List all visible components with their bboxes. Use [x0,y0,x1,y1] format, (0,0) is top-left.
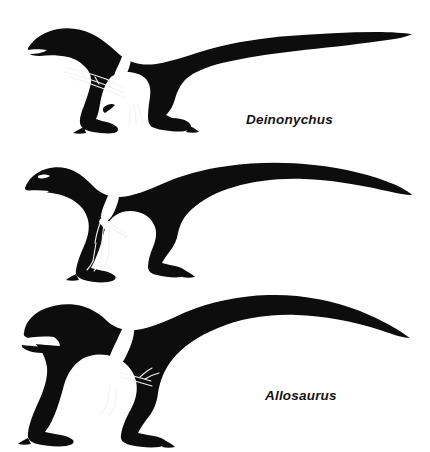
figure-deinonychus: Deinonychus [0,0,430,145]
deinonychus-silhouette [0,0,430,145]
figure-allosaurus: Allosaurus [0,143,430,288]
figure-tyrannosaurus: Tyrannosaurus [0,283,430,452]
species-label-deinonychus: Deinonychus [246,112,333,127]
allosaurus-silhouette [0,143,430,288]
dinosaur-comparison-plate: Deinonychus [0,0,430,452]
tyrannosaurus-silhouette [0,283,430,452]
